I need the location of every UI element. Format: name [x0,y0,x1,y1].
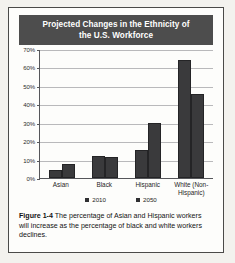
bar-2050-hispanic [148,123,161,178]
legend-label: 2010 [92,196,106,203]
chart-title-line-1: Projected Changes in the Ethnicity of [43,20,190,29]
y-axis-tick-mark [37,179,40,180]
bar-group [178,50,204,178]
x-axis-category-line-1: White (Non- [174,181,208,188]
bar-group [49,50,75,178]
plot-wrapper: 70%60%50%40%30%20%10%0% AsianBlackHispan… [17,50,215,192]
figure-caption-label: Figure 1-4 [19,212,53,220]
bar-2010-hispanic [135,150,148,178]
y-axis-tick-label: 70% [23,47,35,53]
figure-card: Projected Changes in the Ethnicity of th… [8,7,224,253]
x-axis-category-line-2: Hispanic) [178,189,205,196]
y-axis-tick-label: 10% [23,158,35,164]
bar-2010-asian [49,170,62,178]
figure-caption: Figure 1-4 The percentage of Asian and H… [19,212,213,241]
x-axis: AsianBlackHispanicWhite (Non-Hispanic) [39,181,213,196]
bar-group [92,50,118,178]
bar-2010-whitenonhispanic [178,60,191,178]
legend-swatch-icon [136,198,140,202]
bars-layer [40,50,213,178]
y-axis-tick-label: 30% [23,121,35,127]
bar-2050-whitenonhispanic [191,94,204,178]
chart-title: Projected Changes in the Ethnicity of th… [19,15,213,45]
x-axis-category-label: Black [83,181,127,196]
bar-2050-asian [62,164,75,178]
y-axis-tick-label: 20% [23,139,35,145]
legend-entry-2010: 2010 [85,196,106,203]
y-axis: 70%60%50%40%30%20%10%0% [17,50,37,179]
bar-2050-black [105,157,118,178]
chart-legend: 20102050 [17,196,215,203]
x-axis-category-label: White (Non-Hispanic) [170,181,214,196]
chart-region: Projected Changes in the Ethnicity of th… [9,8,223,203]
bar-group [135,50,161,178]
x-axis-category-line-1: Black [96,181,112,188]
bar-2010-black [92,156,105,178]
y-axis-tick-label: 0% [27,176,35,182]
y-axis-tick-label: 40% [23,102,35,108]
chart-title-line-2: the U.S. Workforce [79,31,153,40]
y-axis-tick-label: 60% [23,65,35,71]
y-axis-tick-label: 50% [23,84,35,90]
legend-entry-2050: 2050 [136,196,157,203]
legend-swatch-icon [85,198,89,202]
x-axis-category-line-1: Hispanic [135,181,160,188]
legend-label: 2050 [143,196,157,203]
plot-area [39,50,213,179]
x-axis-category-label: Asian [39,181,83,196]
x-axis-category-line-1: Asian [53,181,69,188]
x-axis-category-label: Hispanic [126,181,170,196]
